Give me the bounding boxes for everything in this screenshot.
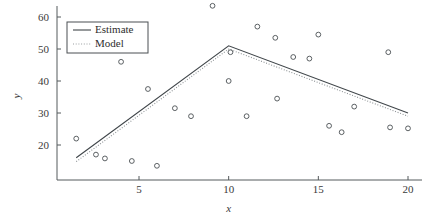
data-point	[316, 32, 321, 37]
data-point	[291, 55, 296, 60]
data-point	[327, 123, 332, 128]
x-tick-label: 10	[223, 183, 235, 195]
data-point	[244, 114, 249, 119]
y-tick-label: 50	[38, 43, 50, 55]
chart-legend: EstimateModel	[67, 22, 148, 53]
data-point	[146, 87, 151, 92]
data-point	[273, 35, 278, 40]
data-point	[275, 96, 280, 101]
series-line-estimate	[76, 46, 408, 158]
data-point	[307, 56, 312, 61]
series-line-model	[76, 49, 408, 162]
chart-figure: 51015202030405060xy EstimateModel	[0, 0, 436, 223]
data-point	[226, 79, 231, 84]
x-axis-title: x	[225, 202, 231, 214]
data-point	[228, 50, 233, 55]
data-point	[386, 50, 391, 55]
data-point	[210, 3, 215, 8]
data-point	[255, 24, 260, 29]
y-tick-label: 30	[38, 107, 50, 119]
x-tick-label: 5	[136, 183, 142, 195]
y-tick-label: 40	[38, 75, 50, 87]
y-tick-label: 60	[38, 11, 50, 23]
data-point	[388, 125, 393, 130]
x-tick-label: 20	[403, 183, 415, 195]
legend-label-model: Model	[95, 37, 124, 49]
chart-canvas: 51015202030405060xy EstimateModel	[0, 0, 436, 223]
y-tick-label: 20	[38, 139, 50, 151]
data-point	[129, 159, 134, 164]
data-point	[94, 152, 99, 157]
data-point	[189, 114, 194, 119]
x-tick-label: 15	[313, 183, 325, 195]
data-point	[352, 104, 357, 109]
data-point	[119, 59, 124, 64]
data-point	[406, 126, 411, 131]
legend-label-estimate: Estimate	[95, 23, 134, 35]
data-point	[155, 163, 160, 168]
series-group	[76, 46, 408, 162]
data-point	[339, 130, 344, 135]
data-point	[172, 106, 177, 111]
data-point	[103, 156, 108, 161]
y-axis-title: y	[10, 93, 22, 99]
data-point	[74, 136, 79, 141]
